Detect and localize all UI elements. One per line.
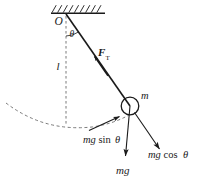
ceiling-hatching	[52, 5, 101, 12]
pendulum-string	[66, 14, 130, 106]
tangential-force-vector	[89, 117, 120, 131]
weight-label: mg	[116, 164, 130, 176]
length-label: l	[57, 60, 60, 72]
tangential-force-function: sin	[99, 134, 112, 145]
radial-force-label: mg cos θ	[148, 149, 188, 160]
figure-canvas: O θ l F T m mg sin θ mg cos θ mg	[0, 0, 197, 187]
tension-label: F T	[97, 46, 111, 62]
swing-path-arc	[6, 103, 129, 128]
pendulum-figure: O θ l F T m mg sin θ mg cos θ mg	[0, 0, 197, 187]
angle-label: θ	[70, 29, 75, 39]
radial-force-prefix: mg	[148, 149, 161, 160]
ceiling-support	[51, 5, 105, 13]
radial-force-angle: θ	[183, 149, 188, 160]
tangential-force-prefix: mg	[83, 134, 96, 145]
tangential-force-angle: θ	[115, 134, 120, 145]
radial-force-vector	[135, 113, 160, 150]
tension-subscript: T	[106, 54, 111, 62]
pivot-label: O	[55, 15, 64, 27]
tangential-force-label: mg sin θ	[83, 134, 120, 145]
radial-force-function: cos	[164, 149, 178, 160]
mass-label: m	[141, 90, 149, 101]
